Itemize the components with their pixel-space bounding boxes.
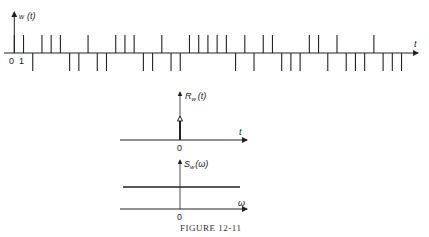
top-y-label: w(t): [19, 11, 36, 21]
bot-x-label: ω: [238, 198, 245, 208]
bot-origin-label: 0: [177, 212, 182, 222]
top-x-label: t: [414, 39, 417, 49]
figure-caption: FIGURE 12-11: [180, 223, 241, 233]
chart-w-t: w(t) t 0 1: [4, 11, 418, 71]
top-origin-label: 0: [9, 56, 14, 66]
mid-y-label: Rw(t): [185, 91, 206, 102]
mid-x-label: t: [239, 127, 242, 137]
chart-autocorrelation: Rw(t) t 0: [120, 91, 247, 153]
chart-power-spectrum: Sw(ω) ω 0: [120, 159, 247, 222]
figure-canvas: w(t) t 0 1 Rw(t) t 0 Sw(ω) ω 0 FIGURE 12…: [0, 0, 429, 237]
mid-origin-label: 0: [177, 143, 182, 153]
impulse-arrowhead-icon: [178, 116, 183, 121]
bot-y-label: Sw(ω): [184, 159, 208, 170]
top-tick-one-label: 1: [19, 56, 24, 66]
